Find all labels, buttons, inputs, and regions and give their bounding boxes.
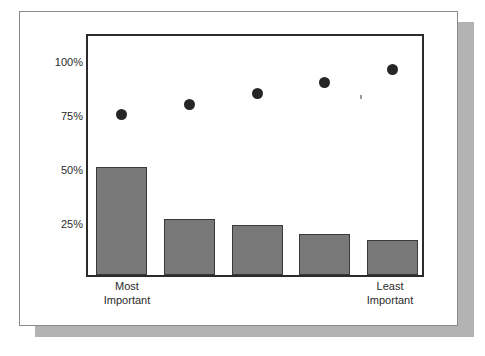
plot-area <box>86 34 424 277</box>
chart-figure: 100% 75% 50% 25% Most Important Least Im… <box>0 0 485 356</box>
y-tick-label-25: 25% <box>37 219 83 230</box>
dot-marker-3 <box>252 88 263 99</box>
y-tick-label-50: 50% <box>37 165 83 176</box>
scan-speck <box>360 95 362 99</box>
x-label-least-important: Least Important <box>330 279 450 307</box>
x-label-most-line1: Most <box>67 279 187 293</box>
y-tick-label-75: 75% <box>37 111 83 122</box>
x-label-least-line1: Least <box>330 279 450 293</box>
x-label-most-line2: Important <box>67 293 187 307</box>
x-label-least-line2: Important <box>330 293 450 307</box>
dot-marker-4 <box>319 77 330 88</box>
y-axis-tick-labels: 100% 75% 50% 25% <box>35 35 83 278</box>
x-axis-labels: Most Important Least Important <box>86 279 424 313</box>
x-label-most-important: Most Important <box>67 279 187 307</box>
dots-layer <box>88 36 422 275</box>
y-tick-label-100: 100% <box>37 57 83 68</box>
dot-marker-2 <box>184 99 195 110</box>
dot-marker-5 <box>387 64 398 75</box>
dot-marker-1 <box>116 109 127 120</box>
chart-card: 100% 75% 50% 25% Most Important Least Im… <box>19 11 458 326</box>
